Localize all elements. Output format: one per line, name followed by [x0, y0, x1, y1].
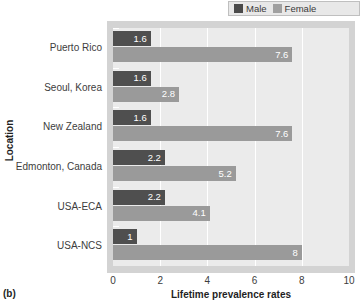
square-swatch-dark-icon [234, 4, 243, 13]
legend-label-male: Male [246, 4, 267, 14]
legend-entry-female: Female [273, 4, 317, 14]
y-axis-tick [113, 107, 119, 108]
bar-value-label: 1 [127, 232, 132, 242]
x-axis-tick-label: 10 [337, 274, 361, 287]
bar-value-label: 2.2 [148, 192, 161, 202]
y-axis-tick [113, 28, 119, 29]
plot-area: 1.67.61.62.81.67.62.25.22.24.118 [113, 28, 349, 266]
y-axis-tick [113, 226, 119, 227]
y-axis-tick [113, 187, 119, 188]
bar-female: 5.2 [113, 166, 236, 181]
bar-female: 4.1 [113, 206, 210, 221]
y-axis-label-seoul-korea: Seoul, Korea [44, 82, 102, 94]
bar-group: 2.25.2 [113, 147, 349, 187]
bar-value-label: 7.6 [275, 129, 288, 139]
bar-value-label: 1.6 [134, 34, 147, 44]
bar-value-label: 1.6 [134, 113, 147, 123]
bar-group: 1.67.6 [113, 107, 349, 147]
bar-female: 7.6 [113, 47, 292, 62]
bar-group: 1.62.8 [113, 68, 349, 108]
x-axis-tick-label: 0 [101, 274, 125, 287]
bar-group: 1.67.6 [113, 28, 349, 68]
y-axis-tick [113, 147, 119, 148]
bar-male: 1 [113, 229, 137, 244]
y-axis-label-usa-ncs: USA-NCS [57, 240, 102, 252]
bar-value-label: 8 [293, 248, 298, 258]
bar-male: 1.6 [113, 31, 151, 46]
bar-value-label: 5.2 [219, 169, 232, 179]
bar-male: 1.6 [113, 71, 151, 86]
legend-entry-male: Male [234, 4, 267, 14]
x-axis-tick-label: 6 [243, 274, 267, 287]
y-axis-label-usa-eca: USA-ECA [58, 201, 102, 213]
bar-value-label: 1.6 [134, 73, 147, 83]
bar-male: 1.6 [113, 110, 151, 125]
y-axis-tick [113, 68, 119, 69]
bar-value-label: 2.8 [162, 89, 175, 99]
bar-female: 2.8 [113, 87, 179, 102]
bar-male: 2.2 [113, 190, 165, 205]
bar-value-label: 7.6 [275, 50, 288, 60]
bar-female: 7.6 [113, 126, 292, 141]
bar-group: 2.24.1 [113, 187, 349, 227]
square-swatch-light-icon [273, 4, 282, 13]
x-axis-title: Lifetime prevalence rates [107, 289, 355, 300]
x-axis-tick-label: 4 [195, 274, 219, 287]
y-axis-label-new-zealand: New Zealand [43, 121, 102, 133]
bar-group: 18 [113, 226, 349, 266]
plot-frame: 1.67.61.62.81.67.62.25.22.24.118 [107, 21, 355, 273]
chart-legend: Male Female [228, 1, 360, 16]
bar-value-label: 4.1 [193, 208, 206, 218]
bar-female: 8 [113, 245, 302, 260]
bar-value-label: 2.2 [148, 153, 161, 163]
y-axis-label-edmonton-canada: Edmonton, Canada [16, 161, 102, 173]
y-axis-tick-labels: Puerto RicoSeoul, KoreaNew ZealandEdmont… [0, 21, 105, 273]
x-axis-tick-labels: 0246810 [107, 274, 355, 288]
legend-label-female: Female [285, 4, 317, 14]
panel-caption: (b) [3, 288, 16, 299]
x-axis-tick-label: 8 [290, 274, 314, 287]
bar-male: 2.2 [113, 150, 165, 165]
bar-chart-figure: Male Female Location Puerto RicoSeoul, K… [0, 0, 363, 305]
y-axis-label-puerto-rico: Puerto Rico [50, 42, 102, 54]
x-axis-tick-label: 2 [148, 274, 172, 287]
